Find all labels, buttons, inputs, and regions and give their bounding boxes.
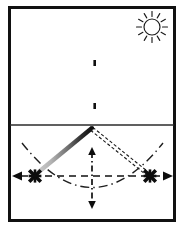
pivot-point [90, 126, 94, 130]
mast-notch-lower [93, 103, 96, 109]
left-endpoint-marker [29, 169, 42, 182]
figure-root [0, 0, 184, 230]
diagram-canvas [0, 0, 184, 230]
right-endpoint-marker [144, 169, 157, 182]
mast-notch-upper [93, 60, 96, 66]
